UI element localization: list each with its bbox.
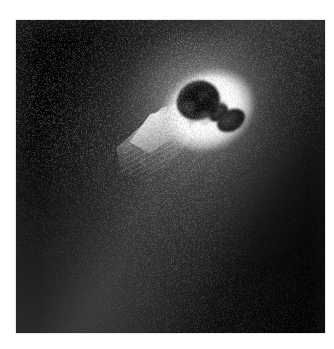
comet-nucleus-image-panel	[16, 20, 325, 333]
page-root	[0, 0, 334, 349]
